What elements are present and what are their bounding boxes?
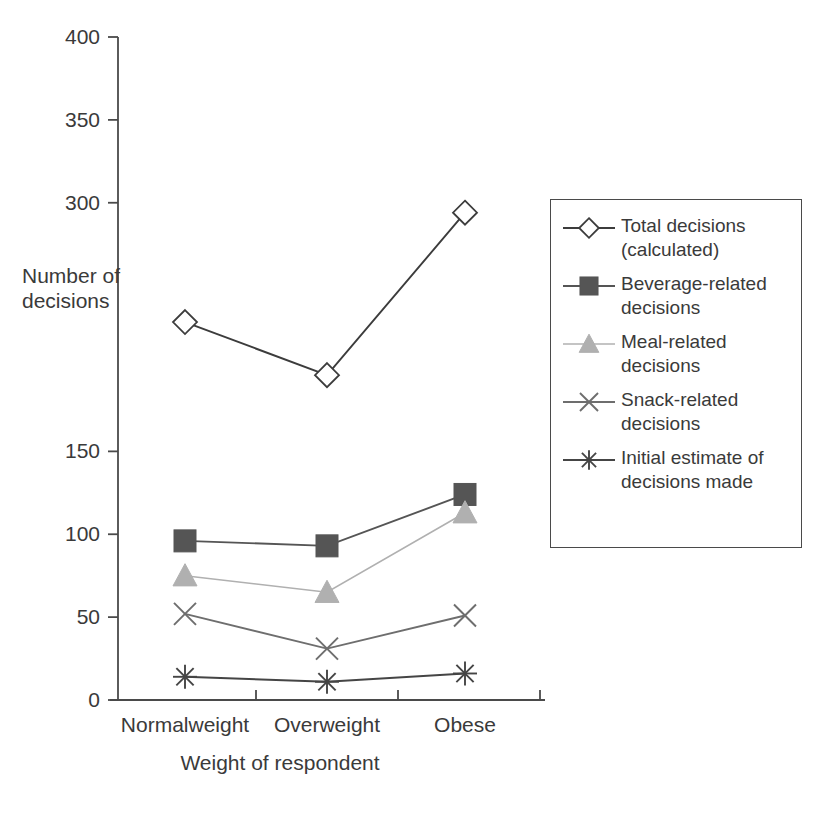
x-tick-marks [256,690,540,700]
marker-square [580,277,598,295]
series-line [185,213,465,375]
y-tick-label: 300 [20,192,100,213]
marker-square [316,535,338,557]
y-tick-label: 350 [20,109,100,130]
legend-label: Snack-relateddecisions [617,388,738,436]
legend-label-line1: Snack-related [621,388,738,412]
legend-label: Meal-relateddecisions [617,330,727,378]
legend-item: Total decisions(calculated) [551,214,801,262]
marker-diamond [579,218,599,238]
marker-diamond [315,363,339,387]
legend-label-line1: Beverage-related [621,272,767,296]
y-tick-marks [108,37,118,700]
y-tick-label: 50 [20,606,100,627]
legend-label-line2: decisions made [621,470,764,494]
triangle-filled-icon [561,331,617,357]
legend-item: Meal-relateddecisions [551,330,801,378]
legend-item: Beverage-relateddecisions [551,272,801,320]
series-2 [174,483,476,556]
marker-square [174,530,196,552]
legend-label-line2: decisions [621,412,738,436]
legend-item: Initial estimate ofdecisions made [551,446,801,494]
marker-diamond [173,310,197,334]
y-tick-label: 0 [20,689,100,710]
series-4 [174,603,476,660]
x-tick-label: Obese [375,714,555,736]
y-tick-label: 150 [20,440,100,461]
legend-label: Total decisions(calculated) [617,214,746,262]
legend-item: Snack-relateddecisions [551,388,801,436]
legend-label-line1: Total decisions [621,214,746,238]
y-axis-title-line2: decisions [22,288,132,313]
series-layer [173,201,477,694]
marker-triangle [173,564,197,586]
chart-legend: Total decisions(calculated)Beverage-rela… [550,199,802,548]
legend-label: Initial estimate ofdecisions made [617,446,764,494]
y-tick-label: 100 [20,523,100,544]
legend-label-line2: decisions [621,354,727,378]
y-axis-title: Number of decisions [22,263,132,313]
y-axis-title-line1: Number of [22,263,132,288]
diamond-open-icon [561,215,617,241]
asterisk-icon [561,447,617,473]
caption-strip [0,800,825,814]
legend-label-line1: Meal-related [621,330,727,354]
plot-area: Number of decisions 400350300150100500 N… [0,0,560,814]
x-cross-icon [561,389,617,415]
legend-label: Beverage-relateddecisions [617,272,767,320]
y-tick-label: 400 [20,26,100,47]
legend-label-line2: (calculated) [621,238,746,262]
series-1 [173,201,477,387]
legend-label-line1: Initial estimate of [621,446,764,470]
chart-figure: Number of decisions 400350300150100500 N… [0,0,825,814]
marker-diamond [453,201,477,225]
x-axis-title: Weight of respondent [0,752,560,774]
square-filled-icon [561,273,617,299]
series-line [185,614,465,649]
series-5 [173,661,477,693]
legend-label-line2: decisions [621,296,767,320]
